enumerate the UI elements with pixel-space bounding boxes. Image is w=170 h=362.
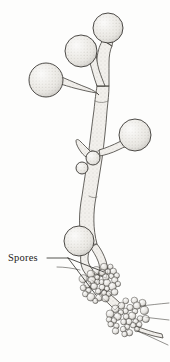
spore [105, 269, 110, 274]
vesicle-small-lower [76, 162, 88, 174]
spore [112, 328, 119, 335]
vesicle-small-upper [86, 151, 100, 165]
vesicle-right-mid [119, 119, 151, 151]
vesicle-top-right [93, 13, 123, 43]
vesicle-lower-left [64, 226, 94, 256]
spore [91, 283, 98, 290]
fungus-illustration: Spores [0, 0, 170, 362]
spore [121, 319, 127, 325]
vesicle-upper-mid [65, 35, 97, 67]
spore [95, 288, 101, 294]
spores-label: Spores [8, 252, 38, 263]
spore [134, 327, 139, 332]
spore [80, 285, 86, 291]
vesicle-left [29, 63, 63, 97]
figure-canvas: Spores [0, 0, 170, 362]
spore [93, 298, 98, 303]
spore [142, 315, 149, 322]
spore [133, 302, 141, 310]
spore [108, 321, 114, 327]
spore [102, 295, 109, 302]
spore [111, 289, 118, 296]
spore [122, 331, 128, 337]
spore [140, 306, 148, 314]
